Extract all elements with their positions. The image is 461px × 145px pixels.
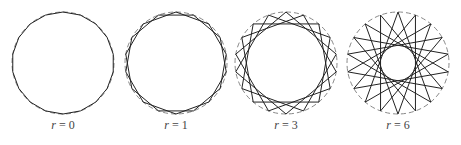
label-value: 0	[69, 118, 75, 132]
dashed-circle	[235, 12, 337, 114]
label-value: 6	[404, 118, 410, 132]
panel-label-r1: r = 1	[146, 118, 206, 133]
panel-label-r6: r = 6	[368, 118, 428, 133]
star-polygon	[13, 12, 113, 114]
panel-r0	[12, 12, 114, 114]
label-equals: =	[279, 118, 292, 132]
panel-label-r3: r = 3	[256, 118, 316, 133]
panel-r6	[347, 12, 449, 114]
label-equals: =	[169, 118, 182, 132]
dashed-circle	[125, 12, 227, 114]
star-polygon	[126, 12, 226, 114]
star-polygon	[236, 12, 336, 114]
label-equals: =	[391, 118, 404, 132]
star-polygon	[348, 12, 448, 114]
panel-r1	[125, 12, 227, 114]
panel-r3	[235, 12, 337, 114]
label-value: 1	[182, 118, 188, 132]
panel-label-r0: r = 0	[33, 118, 93, 133]
label-equals: =	[56, 118, 69, 132]
label-value: 3	[292, 118, 298, 132]
